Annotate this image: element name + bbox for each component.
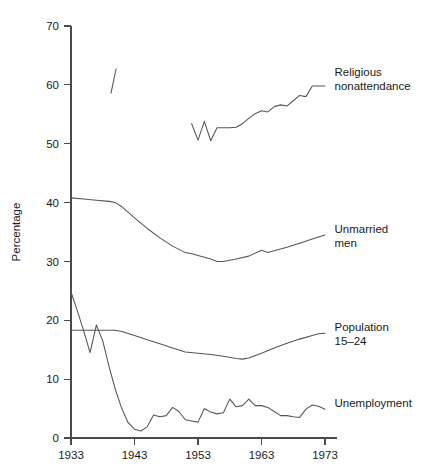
- series-label-2-line2: 15–24: [335, 335, 368, 347]
- series-label-0: Religious: [335, 66, 383, 78]
- series-label-3: Unemployment: [335, 397, 413, 409]
- y-tick-label: 50: [46, 138, 59, 150]
- series-label-1-line2: men: [335, 237, 357, 249]
- y-axis-title: Percentage: [10, 203, 22, 262]
- y-axis: 010203040506070: [46, 20, 71, 444]
- y-tick-label: 60: [46, 79, 59, 91]
- series-line-1-0: [71, 198, 325, 262]
- x-tick-label: 1933: [58, 449, 84, 461]
- y-tick-label: 20: [46, 314, 59, 326]
- series-label-2: Population: [335, 321, 389, 333]
- series-line-3-0: [71, 292, 325, 431]
- series-label-1: Unmarried: [335, 223, 389, 235]
- y-tick-label: 0: [53, 432, 59, 444]
- series-labels-group: ReligiousnonattendanceUnmarriedmenPopula…: [335, 66, 413, 409]
- y-tick-group: 010203040506070: [46, 20, 71, 444]
- series-line-0-1: [192, 86, 325, 141]
- series-paths-group: [71, 69, 325, 431]
- chart-figure: 010203040506070 19331943195319631973 Per…: [0, 0, 430, 473]
- x-axis: 19331943195319631973: [58, 438, 338, 461]
- x-tick-label: 1953: [185, 449, 211, 461]
- x-tick-label: 1963: [249, 449, 275, 461]
- x-tick-label: 1973: [312, 449, 338, 461]
- x-tick-group: 19331943195319631973: [58, 438, 338, 461]
- x-tick-label: 1943: [122, 449, 148, 461]
- y-tick-label: 70: [46, 20, 59, 32]
- series-label-0-line2: nonattendance: [335, 80, 411, 92]
- chart-svg: 010203040506070 19331943195319631973 Per…: [0, 0, 430, 473]
- series-line-0-0: [111, 69, 116, 93]
- series-line-2-0: [71, 330, 325, 359]
- y-tick-label: 10: [46, 373, 59, 385]
- y-tick-label: 30: [46, 256, 59, 268]
- y-tick-label: 40: [46, 197, 59, 209]
